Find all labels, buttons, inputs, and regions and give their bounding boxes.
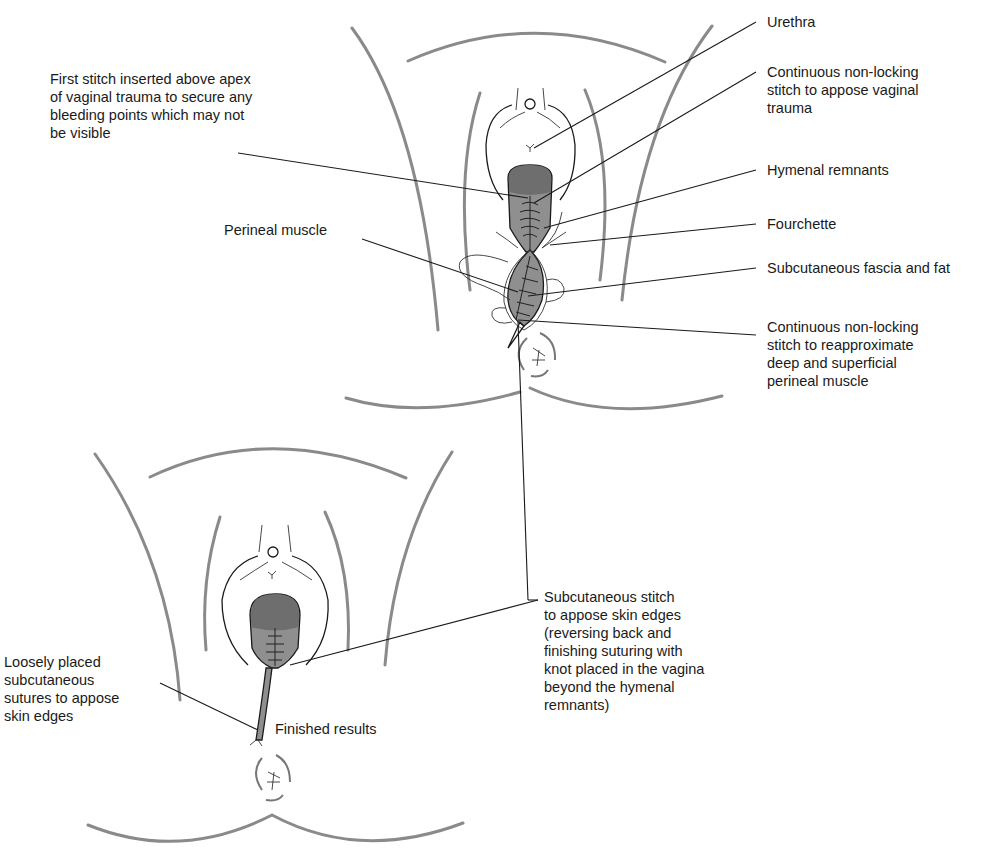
label-first-stitch: First stitch inserted above apex of vagi… bbox=[50, 70, 252, 142]
anus-icon bbox=[519, 333, 555, 376]
top-panel-illustration bbox=[346, 26, 722, 409]
label-loosely-placed-sutures: Loosely placed subcutaneous sutures to a… bbox=[4, 653, 119, 725]
label-continuous-perineal-stitch: Continuous non-locking stitch to reappro… bbox=[767, 318, 919, 390]
anus-icon bbox=[256, 755, 290, 800]
label-subcutaneous-stitch: Subcutaneous stitch to appose skin edges… bbox=[544, 588, 704, 714]
label-urethra: Urethra bbox=[767, 13, 815, 31]
label-finished-results: Finished results bbox=[275, 720, 377, 738]
label-fourchette: Fourchette bbox=[767, 215, 836, 233]
perineal-repair-diagram: First stitch inserted above apex of vagi… bbox=[0, 0, 989, 857]
bottom-panel-illustration bbox=[88, 449, 463, 842]
label-hymenal-remnants: Hymenal remnants bbox=[767, 161, 889, 179]
label-continuous-vaginal-stitch: Continuous non-locking stitch to appose … bbox=[767, 63, 919, 117]
label-subcutaneous-fascia: Subcutaneous fascia and fat bbox=[767, 259, 950, 277]
label-perineal-muscle: Perineal muscle bbox=[224, 221, 327, 239]
